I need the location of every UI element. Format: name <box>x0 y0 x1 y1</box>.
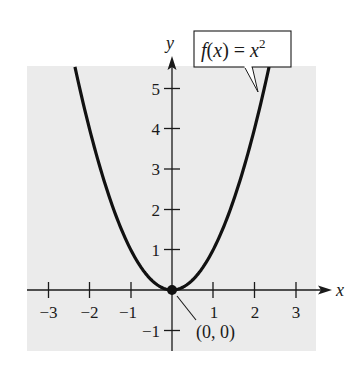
y-tick-label: 4 <box>152 120 161 139</box>
y-tick-label: 3 <box>152 160 161 179</box>
y-tick-label: 5 <box>152 80 161 99</box>
x-tick-label: −2 <box>80 303 98 322</box>
x-tick-label: −1 <box>119 303 137 322</box>
parabola-chart: x y −3 −2 −1 1 2 3 5 4 3 2 1 −1 <box>0 0 356 368</box>
x-tick-label: 3 <box>292 303 301 322</box>
y-axis-label: y <box>164 33 174 53</box>
function-label-exponent: 2 <box>259 36 266 51</box>
y-tick-label: 2 <box>152 201 161 220</box>
function-label: f(x) = x2 <box>201 36 265 62</box>
x-tick-label: 1 <box>210 303 219 322</box>
y-tick-label: −1 <box>142 322 160 341</box>
x-axis-label: x <box>335 280 344 300</box>
vertex-point <box>167 285 177 295</box>
y-tick-label: 1 <box>152 241 161 260</box>
x-tick-label: −3 <box>39 303 57 322</box>
vertex-label: (0, 0) <box>196 322 235 343</box>
x-tick-label: 2 <box>251 303 260 322</box>
